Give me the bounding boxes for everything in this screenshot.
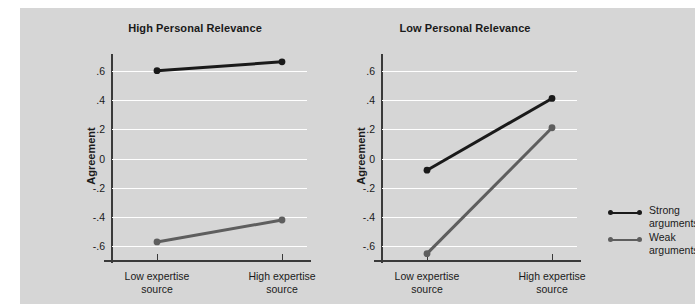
series-line xyxy=(427,128,552,254)
y-tick-label: .6 xyxy=(96,65,105,77)
y-tick-label: .6 xyxy=(366,65,375,77)
series-line xyxy=(157,62,282,71)
data-point[interactable] xyxy=(549,124,556,131)
data-point[interactable] xyxy=(279,217,286,224)
figure-panel: High Personal Relevance Agreement .6.4.2… xyxy=(20,8,695,304)
data-point[interactable] xyxy=(154,239,161,246)
y-tick-label: .4 xyxy=(366,94,375,106)
y-tick-label: 0 xyxy=(369,153,375,165)
legend-item[interactable]: Weakarguments xyxy=(608,231,694,257)
x-tick-label-line: High expertise xyxy=(248,270,315,283)
chart-legend: StrongargumentsWeakarguments xyxy=(608,204,694,258)
series-line xyxy=(157,220,282,242)
panel-title: High Personal Relevance xyxy=(50,22,340,34)
legend-label-line: arguments xyxy=(649,244,694,257)
legend-label-line: Weak xyxy=(649,231,694,244)
x-tick-label: Low expertisesource xyxy=(395,270,460,296)
x-tick-label-line: Low expertise xyxy=(395,270,460,283)
data-point[interactable] xyxy=(424,167,431,174)
y-tick-label: -.2 xyxy=(93,182,105,194)
data-point[interactable] xyxy=(424,250,431,257)
y-tick-label: .2 xyxy=(366,123,375,135)
legend-label-line: arguments xyxy=(649,217,694,230)
x-tick-label: High expertisesource xyxy=(248,270,315,296)
legend-label-line: Strong xyxy=(649,204,694,217)
series-layer xyxy=(112,56,307,261)
y-axis-label: Agreement xyxy=(355,127,367,184)
chart-panel-high-relevance: High Personal Relevance Agreement .6.4.2… xyxy=(50,8,340,304)
legend-label: Strongarguments xyxy=(649,204,694,230)
legend-swatch-icon xyxy=(608,211,642,214)
x-tick-label-line: Low expertise xyxy=(125,270,190,283)
x-tick-label-line: source xyxy=(248,283,315,296)
x-tick-label-line: High expertise xyxy=(518,270,585,283)
y-tick-label: -.2 xyxy=(363,182,375,194)
data-point[interactable] xyxy=(154,67,161,74)
y-tick-label: -.4 xyxy=(363,211,375,223)
y-tick-label: .4 xyxy=(96,94,105,106)
y-tick-label: -.6 xyxy=(93,240,105,252)
y-tick-label: 0 xyxy=(99,153,105,165)
x-tick-label: Low expertisesource xyxy=(125,270,190,296)
y-axis-label: Agreement xyxy=(85,127,97,184)
x-tick-label-line: source xyxy=(395,283,460,296)
y-tick-label: -.6 xyxy=(363,240,375,252)
x-tick-label-line: source xyxy=(518,283,585,296)
data-point[interactable] xyxy=(549,95,556,102)
series-layer xyxy=(382,56,577,261)
panel-title: Low Personal Relevance xyxy=(320,22,610,34)
legend-swatch-icon xyxy=(608,238,642,241)
series-line xyxy=(427,98,552,170)
x-tick-label: High expertisesource xyxy=(518,270,585,296)
plot-area: .6.4.20-.2-.4-.6Low expertisesourceHigh … xyxy=(382,56,577,261)
data-point[interactable] xyxy=(279,58,286,65)
y-tick-label: .2 xyxy=(96,123,105,135)
chart-panel-low-relevance: Low Personal Relevance Agreement .6.4.20… xyxy=(320,8,610,304)
plot-area: .6.4.20-.2-.4-.6Low expertisesourceHigh … xyxy=(112,56,307,261)
y-tick-label: -.4 xyxy=(93,211,105,223)
legend-item[interactable]: Strongarguments xyxy=(608,204,694,230)
x-tick-label-line: source xyxy=(125,283,190,296)
legend-label: Weakarguments xyxy=(649,231,694,257)
